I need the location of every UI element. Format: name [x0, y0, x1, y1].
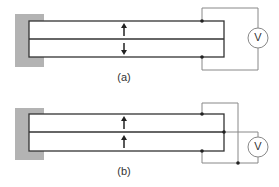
voltmeter-label: V: [254, 31, 261, 43]
voltmeter-label: V: [254, 140, 261, 152]
electrode-dot: [200, 112, 204, 116]
electrode-dot: [200, 149, 204, 153]
electrode-dot: [200, 55, 204, 59]
panel-label-a: (a): [117, 71, 130, 83]
panel-a: [15, 8, 268, 70]
bimorph-diagram: [0, 0, 279, 187]
electrode-dot: [222, 130, 226, 134]
panel-b: [15, 103, 268, 165]
panel-label-b: (b): [117, 165, 130, 177]
junction-dot: [236, 161, 240, 165]
electrode-dot: [200, 19, 204, 23]
